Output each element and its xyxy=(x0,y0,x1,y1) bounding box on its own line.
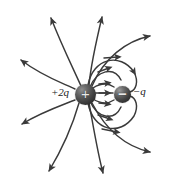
plus-icon: + xyxy=(75,83,96,104)
field-line-escape-down-left xyxy=(49,103,79,171)
field-line-escape-up-left xyxy=(51,18,81,86)
field-line-bound-lower-axis xyxy=(93,99,114,103)
field-line-escape-left-lower xyxy=(22,100,75,124)
positive-charge-label: +2q xyxy=(51,87,69,98)
field-line-bound-top-outer-arrow xyxy=(104,57,118,58)
field-line-escape-left-upper xyxy=(21,60,75,89)
field-line-bound-lower-axis-arrow xyxy=(99,103,108,104)
minus-icon: − xyxy=(114,85,131,102)
field-line-bound-upper-axis-arrow xyxy=(99,83,108,84)
electric-field-diagram: + − +2q −q xyxy=(0,0,169,189)
positive-charge-sphere: + xyxy=(75,84,96,105)
field-line-bound-upper-axis xyxy=(93,84,114,88)
negative-charge-sphere: − xyxy=(114,86,131,103)
negative-charge-label: −q xyxy=(133,86,146,97)
